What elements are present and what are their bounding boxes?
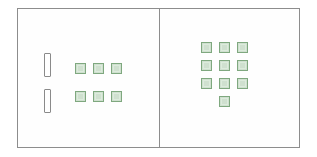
unit-square-3 — [237, 42, 248, 53]
unit-square-4 — [75, 91, 86, 102]
unit-square-8 — [219, 78, 230, 89]
unit-square-2 — [93, 63, 104, 74]
rod-1 — [44, 53, 51, 77]
figure-root — [0, 0, 317, 157]
unit-square-6 — [237, 60, 248, 71]
unit-square-3 — [111, 63, 122, 74]
unit-square-7 — [201, 78, 212, 89]
rod-2 — [44, 89, 51, 113]
unit-square-9 — [237, 78, 248, 89]
unit-square-4 — [201, 60, 212, 71]
right-panel — [159, 9, 299, 147]
unit-square-5 — [93, 91, 104, 102]
diagram-frame — [17, 8, 300, 148]
unit-square-5 — [219, 60, 230, 71]
unit-square-10 — [219, 96, 230, 107]
left-panel — [18, 9, 159, 147]
unit-square-1 — [75, 63, 86, 74]
unit-square-1 — [201, 42, 212, 53]
unit-square-6 — [111, 91, 122, 102]
unit-square-2 — [219, 42, 230, 53]
